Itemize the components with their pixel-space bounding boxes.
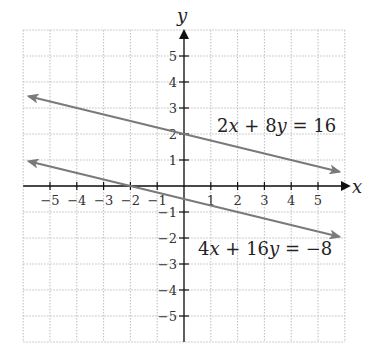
- x-tick-label: −2: [121, 193, 140, 208]
- y-tick-label: −1: [158, 205, 177, 220]
- y-tick-label: 2: [169, 127, 177, 142]
- x-tick-label: 5: [314, 193, 322, 208]
- equation-label-2: 4x + 16y = −8: [198, 238, 332, 259]
- coordinate-plane: −5−4−3−2−11234554321−1−2−3−4−5 x y 2x + …: [0, 0, 379, 360]
- y-tick-label: 5: [169, 49, 177, 64]
- y-axis-label: y: [176, 5, 188, 26]
- equation-label-1: 2x + 8y = 16: [217, 115, 336, 136]
- x-tick-label: −5: [40, 193, 59, 208]
- y-tick-label: −3: [158, 257, 177, 272]
- y-tick-label: 4: [169, 75, 177, 90]
- x-tick-label: 3: [260, 193, 268, 208]
- axes: [23, 31, 349, 342]
- y-tick-label: −5: [158, 309, 177, 324]
- y-tick-label: −2: [158, 231, 177, 246]
- y-tick-label: 1: [169, 153, 177, 168]
- x-tick-label: 4: [287, 193, 295, 208]
- x-axis-label: x: [352, 176, 362, 197]
- x-tick-label: −3: [94, 193, 113, 208]
- y-tick-label: −4: [158, 283, 177, 298]
- x-tick-label: 2: [233, 193, 241, 208]
- x-tick-label: −4: [67, 193, 86, 208]
- y-tick-label: 3: [169, 101, 177, 116]
